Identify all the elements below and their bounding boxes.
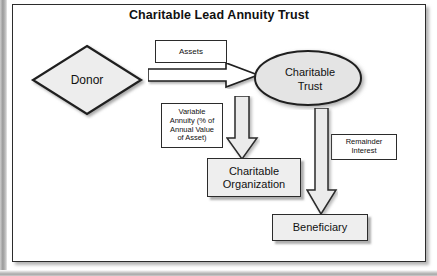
variable-annuity-arrow	[226, 96, 260, 162]
remainder-interest-label-box: Remainder Interest	[331, 134, 397, 160]
charitable-trust-label-line2: Trust	[298, 79, 323, 93]
charitable-organization-node: Charitable Organization	[207, 158, 301, 197]
scan-edge-artifact-left	[0, 0, 7, 272]
assets-label: Assets	[179, 47, 203, 56]
assets-label-box: Assets	[155, 40, 227, 63]
charitable-trust-label: Charitable Trust	[252, 48, 368, 110]
donor-label: Donor	[28, 41, 146, 119]
beneficiary-label: Beneficiary	[293, 221, 347, 234]
scan-edge-artifact-bottom	[0, 270, 437, 276]
page-title: Charitable Lead Annuity Trust	[12, 8, 426, 22]
remainder-label-line2: Interest	[346, 147, 383, 156]
assets-arrow	[148, 63, 260, 89]
charitable-organization-label-line1: Charitable	[223, 165, 285, 178]
remainder-interest-arrow	[306, 108, 338, 218]
beneficiary-node: Beneficiary	[272, 214, 368, 241]
charitable-organization-label-line2: Organization	[223, 178, 285, 191]
charitable-trust-label-line1: Charitable	[285, 65, 335, 79]
diagram-canvas: Charitable Lead Annuity Trust Donor Asse…	[0, 0, 437, 276]
variable-annuity-label-box: Variable Annuity (% of Annual Value of A…	[161, 103, 223, 148]
annuity-label-line4: of Asset)	[170, 134, 215, 143]
